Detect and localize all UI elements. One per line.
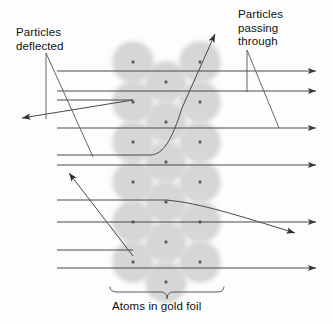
- nucleus: [199, 181, 202, 184]
- atom: [145, 261, 187, 303]
- nucleus: [132, 181, 135, 184]
- nucleus: [199, 61, 202, 64]
- label-particles-deflected: Particles deflected: [16, 26, 64, 53]
- nucleus: [165, 161, 168, 164]
- rutherford-scattering-diagram: Particles deflected Particles passing th…: [0, 0, 333, 324]
- caption-atoms-in-gold-foil: Atoms in gold foil: [112, 300, 201, 314]
- nucleus: [132, 61, 135, 64]
- label-particles-passing-through: Particles passing through: [238, 8, 283, 49]
- nucleus: [165, 281, 168, 284]
- nucleus: [199, 261, 202, 264]
- atoms-layer: [112, 41, 221, 303]
- nucleus: [165, 201, 168, 204]
- leader-passing-diagonal: [247, 50, 279, 128]
- nucleus: [199, 141, 202, 144]
- nucleus: [132, 141, 135, 144]
- nucleus: [165, 241, 168, 244]
- nucleus: [132, 101, 135, 104]
- leader-deflected-diagonal: [46, 53, 93, 157]
- nucleus: [199, 101, 202, 104]
- nucleus: [165, 81, 168, 84]
- nucleus: [132, 261, 135, 264]
- nucleus: [165, 121, 168, 124]
